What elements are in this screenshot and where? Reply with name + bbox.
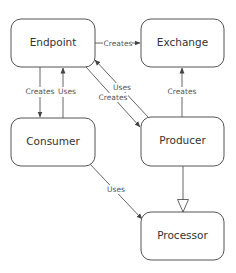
node-endpoint-label: Endpoint [30, 36, 77, 48]
node-producer[interactable]: Producer [141, 117, 224, 166]
svg-text:Creates: Creates [26, 87, 55, 96]
node-endpoint[interactable]: Endpoint [11, 19, 95, 67]
svg-text:Uses: Uses [113, 83, 131, 92]
node-consumer-label: Consumer [26, 135, 80, 147]
edge-consumer-uses-processor: Uses [89, 163, 142, 219]
node-processor-label: Processor [157, 229, 208, 241]
svg-text:Creates: Creates [104, 39, 133, 48]
node-processor[interactable]: Processor [141, 212, 224, 260]
edge-endpoint-creates-consumer: Creates [25, 67, 55, 117]
node-producer-label: Producer [159, 134, 206, 146]
edge-endpoint-creates-exchange: Creates [95, 38, 140, 48]
svg-text:Creates: Creates [168, 87, 197, 96]
svg-text:Uses: Uses [107, 185, 125, 194]
node-exchange-label: Exchange [157, 36, 208, 48]
diagram-canvas: Creates Creates Uses Uses Creates Create… [0, 0, 236, 273]
edge-consumer-uses-endpoint: Uses [56, 68, 76, 118]
edge-producer-uses-endpoint: Uses [95, 60, 148, 117]
edge-producer-creates-exchange: Creates [167, 68, 197, 118]
svg-text:Uses: Uses [58, 87, 76, 96]
svg-text:Creates: Creates [99, 93, 128, 102]
node-exchange[interactable]: Exchange [141, 19, 224, 67]
node-consumer[interactable]: Consumer [11, 118, 95, 166]
edge-endpoint-creates-producer: Creates [86, 67, 140, 127]
